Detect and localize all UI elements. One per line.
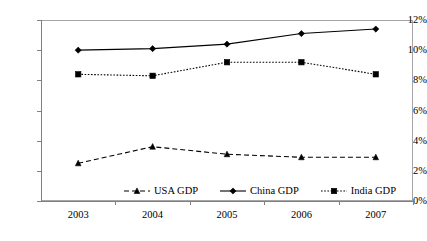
y-axis-tick-label: 6% <box>391 106 427 116</box>
y-axis-tick-label: 12% <box>391 15 427 25</box>
x-axis-tick-label: 2003 <box>43 209 113 221</box>
x-axis-tick-label: 2007 <box>341 209 411 221</box>
legend-marker-square-icon <box>321 186 347 196</box>
legend-marker-triangle-icon <box>124 186 150 196</box>
line-chart: 0%2%4%6%8%10%12% 20032004200520062007 US… <box>0 0 427 241</box>
y-axis-tick-mark <box>37 80 41 81</box>
chart-legend: USA GDPChina GDPIndia GDP <box>124 183 396 198</box>
legend-label: China GDP <box>250 185 299 197</box>
x-axis-tick-mark <box>115 201 116 205</box>
y-axis-tick-mark <box>37 141 41 142</box>
plot-area <box>41 20 413 201</box>
legend-marker-diamond-icon <box>220 186 246 196</box>
y-axis-tick-mark <box>37 111 41 112</box>
y-axis-tick-mark <box>37 20 41 21</box>
legend-item-usa-gdp[interactable]: USA GDP <box>124 185 198 197</box>
x-axis-tick-label: 2006 <box>266 209 336 221</box>
x-axis-tick-mark <box>190 201 191 205</box>
y-axis-line <box>41 20 42 202</box>
legend-item-india-gdp[interactable]: India GDP <box>321 185 396 197</box>
x-axis-line <box>41 201 414 202</box>
legend-item-china-gdp[interactable]: China GDP <box>220 185 299 197</box>
x-axis-tick-label: 2004 <box>118 209 188 221</box>
y-axis-tick-label: 0% <box>391 196 427 206</box>
y-axis-tick-label: 8% <box>391 75 427 85</box>
x-axis-tick-mark <box>413 201 414 205</box>
x-axis-tick-mark <box>339 201 340 205</box>
legend-label: USA GDP <box>154 185 198 197</box>
y-axis-tick-mark <box>37 201 41 202</box>
y-axis-tick-label: 4% <box>391 136 427 146</box>
y-axis-tick-label: 2% <box>391 166 427 176</box>
y-axis-tick-mark <box>37 171 41 172</box>
x-axis-tick-label: 2005 <box>192 209 262 221</box>
y-axis-tick-mark <box>37 50 41 51</box>
x-axis-tick-mark <box>264 201 265 205</box>
legend-label: India GDP <box>351 185 396 197</box>
y-axis-tick-label: 10% <box>391 45 427 55</box>
